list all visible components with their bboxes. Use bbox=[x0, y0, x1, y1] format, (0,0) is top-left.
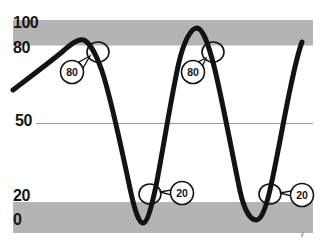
oscillator-figure: 808020201008050200 bbox=[0, 0, 329, 249]
y-axis-tick-label: 20 bbox=[13, 187, 30, 204]
callout-label: 80 bbox=[66, 66, 78, 78]
overbought-band bbox=[13, 20, 313, 46]
y-axis-tick-label: 80 bbox=[13, 39, 30, 56]
callout-label: 20 bbox=[296, 189, 308, 201]
y-axis-tick-label: 0 bbox=[13, 211, 22, 228]
y-axis-tick-label: 50 bbox=[15, 112, 32, 129]
callout-label: 80 bbox=[187, 66, 199, 78]
oscillator-chart: 808020201008050200 bbox=[0, 0, 329, 249]
callout-label: 20 bbox=[176, 187, 188, 199]
y-axis-tick-label: 100 bbox=[13, 14, 39, 31]
